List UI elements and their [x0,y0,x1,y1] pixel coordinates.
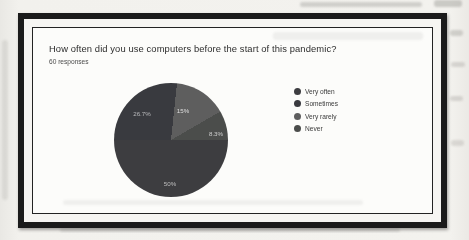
legend-item-very-often: Very often [294,87,338,95]
scan-smudge [450,30,463,36]
question-title: How often did you use computers before t… [49,43,336,54]
scan-smudge [60,228,400,232]
responses-count-label: 60 responses [49,58,89,65]
scan-smudge [451,62,465,67]
scan-smudge [2,40,8,200]
legend-label: Sometimes [305,100,338,107]
legend-label: Very rarely [305,113,337,120]
form-results-card: How often did you use computers before t… [32,27,433,214]
decorative-picture-frame: How often did you use computers before t… [18,13,447,228]
pie-chart: 50% 26.7% 15% 8.3% [114,83,228,197]
scan-smudge [63,200,363,205]
legend-color-dot-icon [294,125,301,132]
legend-label: Very often [305,88,335,95]
slice-percent-label: 50% [164,180,176,187]
slice-percent-label: 8.3% [209,130,223,137]
scan-smudge [300,2,422,7]
legend-item-sometimes: Sometimes [294,100,338,108]
legend-color-dot-icon [294,100,301,107]
scan-smudge [434,0,462,7]
scan-smudge [451,140,464,146]
legend-item-very-rarely: Very rarely [294,112,338,120]
slice-percent-label: 15% [177,107,189,114]
slice-percent-label: 26.7% [133,110,151,117]
scanned-page: { "page": { "background_color": "#f2f1ed… [0,0,469,233]
frame-inner-gap: How often did you use computers before t… [24,19,441,222]
legend-label: Never [305,125,323,132]
legend-color-dot-icon [294,88,301,95]
chart-legend: Very often Sometimes Very rarely Never [294,87,338,137]
scan-smudge [273,32,423,40]
legend-item-never: Never [294,125,338,133]
scan-smudge [450,96,463,101]
legend-color-dot-icon [294,113,301,120]
